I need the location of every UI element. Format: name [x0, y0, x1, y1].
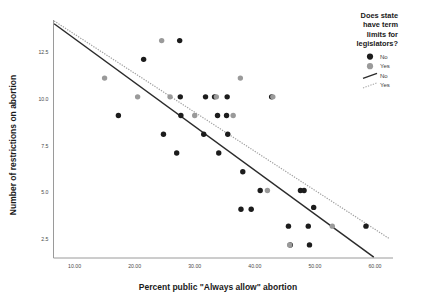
data-point-no — [224, 94, 229, 99]
data-point-yes — [270, 94, 275, 99]
data-point-no — [216, 150, 221, 155]
x-tick-label: 30.00 — [188, 263, 201, 269]
data-point-no — [174, 150, 179, 155]
data-point-no — [238, 207, 243, 212]
x-tick-label: 50.00 — [308, 263, 321, 269]
legend-label-line-no: No — [380, 73, 388, 79]
data-point-no — [116, 113, 121, 118]
data-point-no — [248, 207, 253, 212]
legend-title-line: limits for — [367, 30, 398, 39]
data-point-no — [258, 188, 263, 193]
data-point-no — [240, 169, 245, 174]
y-tick-label: 2.5 — [41, 236, 48, 242]
data-point-no — [311, 205, 316, 210]
data-point-no — [161, 132, 166, 137]
legend-title-line: Does state — [361, 11, 398, 20]
y-axis-tick-labels: 2.55.07.510.012.5 — [38, 49, 48, 242]
fit-line-yes — [54, 21, 389, 238]
data-point-yes — [192, 113, 197, 118]
data-point-yes — [214, 94, 219, 99]
legend-title-line: legislators? — [357, 39, 399, 48]
data-point-no — [178, 113, 183, 118]
data-point-no — [306, 223, 311, 228]
chart-canvas: 10.0020.0030.0040.0050.0060.00 2.55.07.5… — [0, 0, 429, 305]
fit-lines-group — [54, 21, 389, 257]
data-point-no — [141, 57, 146, 62]
x-axis-title: Percent public "Always allow" abortion — [139, 282, 297, 292]
data-point-yes — [159, 38, 164, 43]
legend-label-line-yes: Yes — [380, 82, 390, 88]
legend-label-marker-yes: Yes — [380, 63, 390, 69]
data-point-no — [178, 94, 183, 99]
x-tick-label: 20.00 — [128, 263, 141, 269]
x-tick-label: 60.00 — [368, 263, 381, 269]
plot-axes — [54, 20, 394, 258]
x-axis-tick-labels: 10.0020.0030.0040.0050.0060.00 — [68, 263, 382, 269]
data-point-no — [307, 242, 312, 247]
y-axis-title: Number of restrictions on abortion — [8, 75, 18, 215]
legend-marker-no — [367, 54, 373, 60]
legend-marker-yes — [367, 63, 373, 69]
data-point-yes — [167, 94, 172, 99]
legend-title-line: have term — [363, 20, 398, 29]
data-point-no — [301, 188, 306, 193]
data-point-yes — [135, 94, 140, 99]
fit-line-no — [54, 24, 374, 257]
data-point-no — [177, 38, 182, 43]
data-point-yes — [238, 75, 243, 80]
data-point-no — [203, 94, 208, 99]
data-point-yes — [102, 75, 107, 80]
x-tick-label: 10.00 — [68, 263, 81, 269]
data-point-no — [225, 132, 230, 137]
legend: Does statehave termlimits forlegislators… — [357, 11, 399, 88]
y-tick-label: 5.0 — [41, 189, 48, 195]
data-point-yes — [330, 223, 335, 228]
data-point-yes — [287, 242, 292, 247]
data-point-no — [201, 132, 206, 137]
x-tick-label: 40.00 — [248, 263, 261, 269]
legend-line-yes — [363, 83, 377, 88]
data-points-group — [102, 38, 369, 248]
legend-line-no — [363, 73, 377, 78]
y-tick-label: 12.5 — [38, 49, 48, 55]
data-point-yes — [265, 188, 270, 193]
y-tick-label: 10.0 — [38, 96, 48, 102]
data-point-no — [363, 223, 368, 228]
data-point-no — [286, 223, 291, 228]
y-tick-label: 7.5 — [41, 143, 48, 149]
data-point-yes — [230, 113, 235, 118]
legend-label-marker-no: No — [380, 54, 388, 60]
data-point-no — [224, 113, 229, 118]
scatter-chart: 10.0020.0030.0040.0050.0060.00 2.55.07.5… — [0, 0, 429, 305]
data-point-no — [215, 113, 220, 118]
axis-lines — [54, 20, 394, 258]
